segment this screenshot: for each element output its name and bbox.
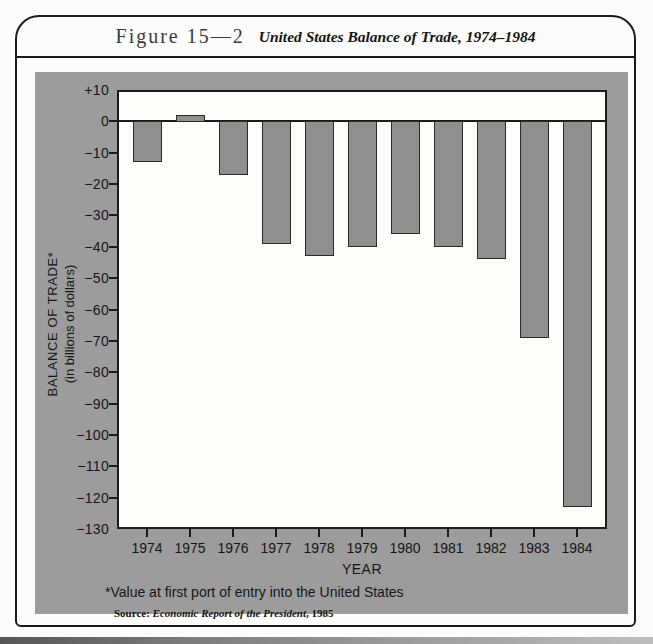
x-tick-label-1976: 1976	[211, 540, 255, 556]
bar-1976	[219, 121, 248, 174]
y-tick-label-−80: −80	[35, 363, 109, 381]
y-tick-label-−70: −70	[35, 332, 109, 350]
x-tick-label-1980: 1980	[383, 540, 427, 556]
y-tick-mark	[109, 183, 117, 185]
y-tick-mark	[109, 152, 117, 154]
figure-frame: Figure 15—2 United States Balance of Tra…	[15, 15, 636, 627]
y-tick-label-−10: −10	[35, 144, 109, 162]
y-tick-mark	[109, 465, 117, 467]
bar-1974	[133, 121, 162, 162]
y-tick-label-−110: −110	[35, 457, 109, 475]
y-tick-mark	[109, 340, 117, 342]
x-tick-label-1984: 1984	[555, 540, 599, 556]
y-tick-mark	[109, 403, 117, 405]
bar-1980	[391, 121, 420, 234]
y-tick-label-−50: −50	[35, 269, 109, 287]
bar-1984	[563, 121, 592, 507]
figure-number: Figure 15—2	[116, 25, 245, 48]
bar-1983	[520, 121, 549, 337]
y-tick-label-0: 0	[35, 112, 109, 130]
footnote: *Value at first port of entry into the U…	[105, 584, 404, 600]
bar-1979	[348, 121, 377, 246]
x-tick-mark	[576, 529, 578, 537]
bar-1978	[305, 121, 334, 256]
x-tick-label-1974: 1974	[125, 540, 169, 556]
chart-panel: BALANCE OF TRADE* (in billions of dollar…	[35, 72, 628, 614]
x-tick-label-1979: 1979	[340, 540, 384, 556]
bar-1975	[176, 115, 205, 122]
plot-area	[117, 90, 607, 529]
y-tick-label-−30: −30	[35, 206, 109, 224]
x-tick-mark	[189, 529, 191, 537]
x-tick-label-1982: 1982	[469, 540, 513, 556]
y-tick-mark	[109, 214, 117, 216]
y-tick-label-−130: −130	[35, 520, 109, 538]
figure-title-band: Figure 15—2 United States Balance of Tra…	[17, 17, 634, 58]
y-tick-label-+10: +10	[35, 81, 109, 99]
y-tick-mark	[109, 277, 117, 279]
bar-1977	[262, 121, 291, 243]
y-tick-mark	[109, 371, 117, 373]
x-tick-label-1981: 1981	[426, 540, 470, 556]
y-tick-mark	[109, 497, 117, 499]
source-prefix: Source:	[114, 607, 153, 619]
y-tick-label-−90: −90	[35, 395, 109, 413]
y-tick-label-−60: −60	[35, 301, 109, 319]
source-title: Economic Report of the President	[153, 607, 306, 619]
x-tick-label-1975: 1975	[168, 540, 212, 556]
page-edge-shadow	[0, 637, 653, 644]
x-tick-mark	[146, 529, 148, 537]
x-axis-title: YEAR	[117, 561, 607, 577]
x-tick-mark	[361, 529, 363, 537]
bar-1981	[434, 121, 463, 246]
x-tick-mark	[232, 529, 234, 537]
book-page: Figure 15—2 United States Balance of Tra…	[0, 0, 653, 644]
x-tick-mark	[447, 529, 449, 537]
x-tick-mark	[533, 529, 535, 537]
source-year: , 1985	[306, 607, 334, 619]
y-tick-label-−120: −120	[35, 489, 109, 507]
y-tick-mark	[109, 434, 117, 436]
x-tick-label-1983: 1983	[512, 540, 556, 556]
x-tick-mark	[404, 529, 406, 537]
source-line: Source: Economic Report of the President…	[114, 607, 334, 619]
y-tick-label-−20: −20	[35, 175, 109, 193]
y-tick-label-−100: −100	[35, 426, 109, 444]
y-tick-mark	[109, 120, 117, 122]
y-tick-mark	[109, 309, 117, 311]
x-tick-label-1977: 1977	[254, 540, 298, 556]
bar-1982	[477, 121, 506, 259]
y-tick-label-−40: −40	[35, 238, 109, 256]
x-tick-label-1978: 1978	[297, 540, 341, 556]
figure-caption: United States Balance of Trade, 1974–198…	[259, 28, 536, 46]
x-tick-mark	[275, 529, 277, 537]
x-tick-mark	[490, 529, 492, 537]
x-tick-mark	[318, 529, 320, 537]
y-tick-mark	[109, 246, 117, 248]
